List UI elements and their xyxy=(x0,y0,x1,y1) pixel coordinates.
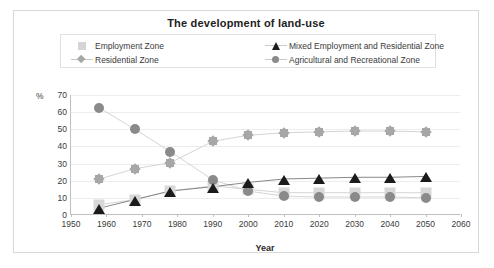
x-axis-tick-label: 1980 xyxy=(168,219,187,229)
legend-item-residential-zone: Residential Zone xyxy=(71,52,159,67)
legend-label: Mixed Employment and Residential Zone xyxy=(289,41,444,51)
x-axis-tick-label: 2010 xyxy=(274,219,293,229)
data-point xyxy=(420,172,432,182)
data-point xyxy=(164,187,176,197)
data-point xyxy=(386,127,394,135)
x-axis-tick xyxy=(71,214,72,217)
legend-marker-triangle-icon xyxy=(265,40,287,51)
x-axis-title: Year xyxy=(70,243,460,253)
y-axis-tick-label: 50 xyxy=(58,124,67,134)
series-line xyxy=(99,108,425,198)
y-axis-tick-label: 10 xyxy=(58,193,67,203)
data-point xyxy=(278,175,290,185)
y-axis-tick-label: 30 xyxy=(58,159,67,169)
x-axis-tick-label: 1970 xyxy=(132,219,151,229)
x-axis-tick xyxy=(142,214,143,217)
x-axis-tick-label: 2060 xyxy=(452,219,471,229)
x-axis-tick xyxy=(355,214,356,217)
data-point xyxy=(313,174,325,184)
data-point xyxy=(350,192,360,202)
data-point xyxy=(242,178,254,188)
x-axis-tick xyxy=(248,214,249,217)
data-point xyxy=(351,127,359,135)
legend-marker-circle-icon xyxy=(265,54,287,65)
data-point xyxy=(95,175,103,183)
x-axis-tick xyxy=(461,214,462,217)
data-point xyxy=(314,192,324,202)
legend-label: Agricultural and Recreational Zone xyxy=(289,55,420,65)
plot-canvas: 010203040506070 195019601970198019902000… xyxy=(70,95,460,215)
legend-item-employment-zone: Employment Zone xyxy=(71,38,164,53)
x-axis-tick xyxy=(177,214,178,217)
x-axis-tick xyxy=(426,214,427,217)
legend-item-agricultural-recreational-zone: Agricultural and Recreational Zone xyxy=(265,52,420,67)
data-point xyxy=(94,103,104,113)
legend-item-mixed-employment-residential-zone: Mixed Employment and Residential Zone xyxy=(265,38,444,53)
data-point xyxy=(165,147,175,157)
series-line xyxy=(99,186,425,205)
data-point xyxy=(131,165,139,173)
x-axis-tick xyxy=(213,214,214,217)
data-point xyxy=(129,196,141,206)
data-point xyxy=(166,159,174,167)
x-axis-tick-label: 2050 xyxy=(416,219,435,229)
legend-marker-diamond-icon xyxy=(71,54,93,65)
data-point xyxy=(93,204,105,214)
data-point xyxy=(209,137,217,145)
x-axis-tick xyxy=(284,214,285,217)
x-axis-tick xyxy=(390,214,391,217)
chart-frame: The development of land-use Employment Z… xyxy=(13,10,479,253)
x-axis-tick-label: 1960 xyxy=(97,219,116,229)
x-axis-tick-label: 2030 xyxy=(345,219,364,229)
chart-legend: Employment Zone Residential Zone Mixed E… xyxy=(60,34,436,68)
chart-title: The development of land-use xyxy=(14,17,478,29)
y-axis-tick-label: 40 xyxy=(58,141,67,151)
data-point xyxy=(421,193,431,203)
x-axis-tick-label: 1950 xyxy=(62,219,81,229)
y-axis-tick-label: 60 xyxy=(58,107,67,117)
y-axis-tick-label: 70 xyxy=(58,90,67,100)
y-axis-unit-label: % xyxy=(36,91,44,101)
y-axis-tick-label: 20 xyxy=(58,176,67,186)
data-point xyxy=(384,173,396,183)
data-point xyxy=(385,192,395,202)
x-axis-tick-label: 1990 xyxy=(203,219,222,229)
x-axis-tick-label: 2040 xyxy=(381,219,400,229)
x-axis-tick xyxy=(319,214,320,217)
data-point xyxy=(279,191,289,201)
data-point xyxy=(280,129,288,137)
data-point xyxy=(244,131,252,139)
legend-label: Residential Zone xyxy=(95,55,159,65)
legend-marker-square-icon xyxy=(71,40,93,51)
data-point xyxy=(207,183,219,193)
x-axis-tick-label: 2020 xyxy=(310,219,329,229)
data-point xyxy=(349,173,361,183)
x-axis-tick xyxy=(106,214,107,217)
data-point xyxy=(422,128,430,136)
legend-label: Employment Zone xyxy=(95,41,164,51)
data-point xyxy=(130,124,140,134)
plot-area: 010203040506070 195019601970198019902000… xyxy=(70,95,460,215)
x-axis-tick-label: 2000 xyxy=(239,219,258,229)
data-point xyxy=(315,128,323,136)
